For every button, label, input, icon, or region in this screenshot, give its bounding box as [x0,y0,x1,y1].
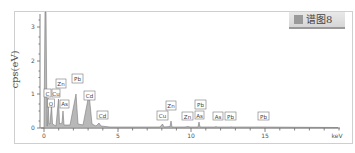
legend-swatch [294,15,303,24]
svg-text:Cd: Cd [86,93,93,99]
svg-text:Pb: Pb [74,76,81,82]
y-tick-labels: 0 1 2 3 [31,23,35,131]
svg-text:1: 1 [31,90,35,97]
x-tick-labels: 0 5 10 15 keV [42,132,343,139]
spectrum-area [41,12,338,128]
y-axis [37,14,40,128]
svg-text:Zn: Zn [167,103,175,109]
svg-text:Zn: Zn [184,114,192,120]
svg-text:Cu: Cu [52,91,59,97]
legend: 谱图8 [289,12,345,29]
svg-text:2: 2 [31,57,35,64]
svg-text:15: 15 [261,132,269,139]
x-unit-label: keV [331,132,343,139]
svg-text:Zn: Zn [57,81,65,87]
svg-text:C: C [46,91,50,97]
svg-text:Pb: Pb [260,114,267,120]
legend-label: 谱图8 [306,15,332,25]
svg-text:Pb: Pb [197,102,204,108]
svg-text:10: 10 [187,132,195,139]
svg-text:0: 0 [31,124,35,131]
svg-text:3: 3 [31,23,35,30]
svg-text:0: 0 [42,132,46,139]
svg-text:Cd: Cd [99,113,106,119]
svg-text:5: 5 [116,132,120,139]
svg-text:Pb: Pb [227,114,234,120]
svg-text:As: As [215,114,222,120]
svg-text:As: As [196,113,203,119]
svg-text:O: O [49,101,54,107]
svg-text:As: As [61,101,68,107]
y-axis-label: cps(eV) [9,50,20,90]
svg-text:Cu: Cu [159,113,166,119]
